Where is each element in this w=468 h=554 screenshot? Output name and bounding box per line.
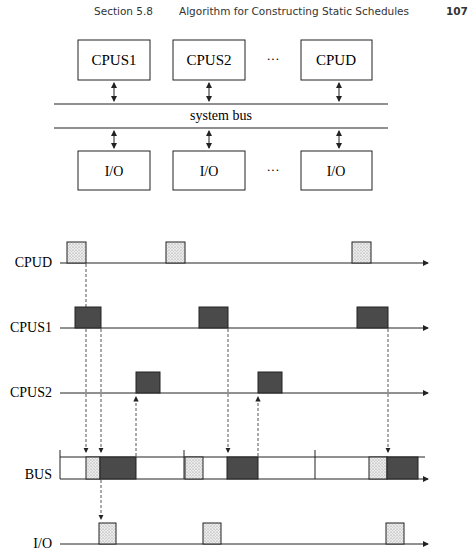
row-label-cpus2: CPUS2	[10, 385, 52, 400]
io-box-1: I/O	[78, 151, 150, 190]
task-block	[166, 242, 185, 263]
cpu-box-2: CPUS2	[173, 40, 245, 80]
system-bus-label: system bus	[190, 108, 252, 123]
io-label: I/O	[105, 164, 124, 179]
timeline-bus	[60, 450, 428, 479]
ellipsis-top: ···	[267, 51, 280, 66]
bus-slot	[86, 457, 100, 479]
timeline-cpus1	[60, 307, 428, 328]
cpu-box-1: CPUS1	[78, 40, 150, 80]
row-label-cpus1: CPUS1	[10, 320, 52, 335]
ellipsis-bottom: ···	[267, 162, 280, 177]
cpu-label: CPUS1	[91, 52, 136, 68]
bus-slot	[387, 457, 418, 479]
row-label-io: I/O	[33, 536, 52, 551]
task-block	[136, 372, 160, 393]
bus-slot	[369, 457, 387, 479]
bus-slot	[100, 457, 136, 479]
timing-diagram: CPUD CPUS1 CPUS2 BUS I/O	[10, 242, 428, 551]
task-block	[386, 523, 404, 544]
cpu-label: CPUD	[316, 52, 356, 68]
timeline-cpud	[60, 242, 428, 263]
io-box-3: I/O	[301, 151, 372, 190]
task-block	[67, 242, 86, 263]
task-block	[203, 523, 221, 544]
timeline-io	[60, 523, 428, 544]
figure: CPUS1 CPUS2 ··· CPUD system bus I/O	[0, 0, 468, 554]
row-label-cpud: CPUD	[15, 255, 52, 270]
task-block	[258, 372, 282, 393]
task-block	[99, 523, 116, 544]
task-block	[75, 307, 101, 328]
io-label: I/O	[200, 164, 219, 179]
task-block	[352, 242, 371, 263]
io-label: I/O	[327, 164, 346, 179]
bus-slot	[185, 457, 203, 479]
cpu-box-d: CPUD	[301, 40, 372, 80]
dependency-lines	[86, 264, 388, 519]
io-box-2: I/O	[173, 151, 245, 190]
timeline-cpus2	[60, 372, 428, 393]
bus-slot	[227, 457, 258, 479]
task-block	[357, 307, 388, 328]
cpu-label: CPUS2	[186, 52, 231, 68]
architecture-diagram: CPUS1 CPUS2 ··· CPUD system bus I/O	[54, 40, 388, 190]
task-block	[199, 307, 228, 328]
row-label-bus: BUS	[25, 467, 52, 482]
